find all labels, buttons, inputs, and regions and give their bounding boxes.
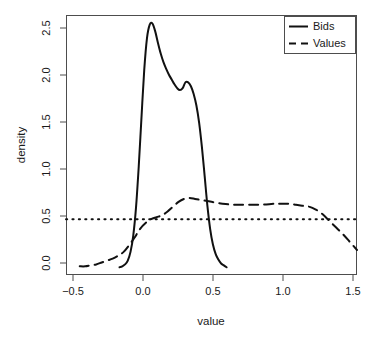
- y-axis-tick-labels: 0.0 0.5 1.0 1.5 2.0 2.5: [40, 20, 52, 270]
- y-tick-label-1: 0.5: [40, 208, 52, 223]
- legend: Bids Values: [285, 17, 356, 54]
- y-tick-label-0: 0.0: [40, 255, 52, 270]
- plot-data-region: [66, 23, 357, 267]
- y-tick-label-5: 2.5: [40, 20, 52, 35]
- y-axis-title: density: [15, 127, 27, 164]
- chart-canvas: 0.0 0.5 1.0 1.5 2.0 2.5 −0.5 0.0 0.5 1.0…: [0, 0, 375, 339]
- x-tick-label-2: 0.5: [205, 285, 220, 297]
- x-tick-label-0: −0.5: [62, 285, 84, 297]
- x-tick-label-3: 1.0: [275, 285, 290, 297]
- x-axis-ticks: [73, 275, 353, 281]
- x-axis-tick-labels: −0.5 0.0 0.5 1.0 1.5: [62, 285, 361, 297]
- series-line-bids: [120, 23, 227, 267]
- y-axis-ticks: [60, 28, 66, 263]
- y-tick-label-2: 1.0: [40, 161, 52, 176]
- x-tick-label-4: 1.5: [345, 285, 360, 297]
- legend-label-values: Values: [313, 37, 346, 49]
- density-plot-figure: 0.0 0.5 1.0 1.5 2.0 2.5 −0.5 0.0 0.5 1.0…: [0, 0, 375, 339]
- y-tick-label-3: 1.5: [40, 114, 52, 129]
- x-axis-title: value: [197, 315, 225, 327]
- series-line-values: [80, 198, 357, 266]
- x-tick-label-1: 0.0: [135, 285, 150, 297]
- y-tick-label-4: 2.0: [40, 67, 52, 82]
- legend-label-bids: Bids: [313, 20, 335, 32]
